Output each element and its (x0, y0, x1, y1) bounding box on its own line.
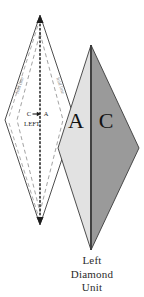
annotation-to-label: A (44, 110, 49, 117)
right-diamond-group: A C (58, 45, 139, 250)
diamond-unit-diagram: fold line fold line C A LEFT A C (0, 0, 144, 297)
figure-container: fold line fold line C A LEFT A C Left Di… (0, 0, 144, 297)
center-line-arrow-bottom (36, 217, 43, 225)
annotation-direction-label: LEFT (24, 120, 40, 127)
region-label-c: C (99, 108, 114, 133)
figure-caption: Left Diamond Unit (48, 254, 136, 295)
annotation-from-label: C (27, 110, 31, 117)
right-diamond-half-c (91, 45, 139, 250)
caption-line-1: Left (48, 254, 136, 268)
caption-line-3: Unit (48, 281, 136, 295)
center-line-arrow-top (36, 15, 43, 23)
caption-line-2: Diamond (48, 268, 136, 282)
right-diamond-half-a (58, 45, 91, 250)
left-diamond-group: fold line fold line C A LEFT (5, 15, 75, 225)
region-label-a: A (68, 108, 84, 133)
